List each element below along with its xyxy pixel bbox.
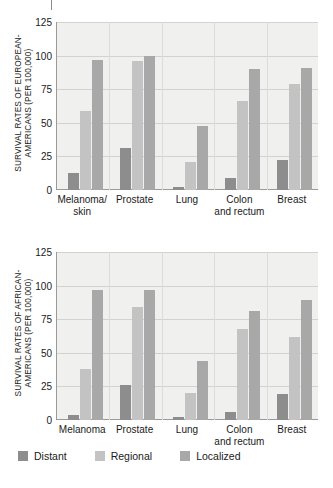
bar [249, 69, 260, 190]
bar [80, 369, 91, 420]
bar [185, 162, 196, 190]
figure-container: SURVIVAL RATES OF EUROPEAN- AMERICANS (P… [0, 0, 333, 488]
category-separator-2 [162, 252, 163, 420]
bar [132, 61, 143, 190]
legend-item-localized[interactable]: Localized [180, 450, 240, 462]
y-axis-title-line2: AMERICANS (PER 100,000) [23, 246, 34, 420]
category-label: Breast [252, 194, 332, 206]
legend-item-regional[interactable]: Regional [95, 450, 152, 462]
legend-swatch-icon-distant [18, 451, 28, 461]
bar [197, 126, 208, 191]
chart-african-americans: SURVIVAL RATES OF AFRICAN- AMERICANS (PE… [0, 246, 333, 458]
bar [277, 394, 288, 420]
y-axis-title-line1: SURVIVAL RATES OF AFRICAN- [13, 270, 23, 397]
bar [301, 300, 312, 420]
bar [289, 84, 300, 190]
legend: DistantRegionalLocalized [18, 450, 269, 462]
category-separator-1 [109, 22, 110, 190]
bar [132, 307, 143, 420]
bar-group [173, 252, 208, 420]
category-separator-3 [214, 252, 215, 420]
legend-item-distant[interactable]: Distant [18, 450, 67, 462]
y-tick-label-25: 25 [22, 381, 52, 392]
legend-label-regional: Regional [111, 450, 152, 462]
bar [237, 101, 248, 190]
y-tick-label-50: 50 [22, 347, 52, 358]
y-tick-label-100: 100 [22, 280, 52, 291]
chart-european-americans: SURVIVAL RATES OF EUROPEAN- AMERICANS (P… [0, 16, 333, 228]
bar-group [277, 252, 312, 420]
y-axis-title-european: SURVIVAL RATES OF EUROPEAN- AMERICANS (P… [2, 16, 44, 190]
y-tick-label-100: 100 [22, 50, 52, 61]
category-separator-2 [162, 22, 163, 190]
bar [92, 60, 103, 190]
y-tick-label-75: 75 [22, 84, 52, 95]
bar [144, 56, 155, 190]
bar-group [277, 22, 312, 190]
y-axis-title-line2: AMERICANS (PER 100,000) [23, 16, 34, 190]
bar [92, 290, 103, 420]
bar [197, 361, 208, 420]
bar [237, 329, 248, 420]
bar [144, 290, 155, 420]
bar [249, 311, 260, 420]
legend-label-localized: Localized [196, 450, 240, 462]
legend-swatch-icon-localized [180, 451, 190, 461]
y-axis-title-line1: SURVIVAL RATES OF EUROPEAN- [13, 34, 23, 171]
category-separator-4 [267, 22, 268, 190]
bar [225, 412, 236, 420]
y-tick-label-125: 125 [22, 247, 52, 258]
category-separator-4 [267, 252, 268, 420]
bar [301, 68, 312, 190]
category-separator-1 [109, 252, 110, 420]
bar [277, 160, 288, 190]
bar [68, 173, 79, 190]
bar [225, 178, 236, 190]
bar-group [225, 252, 260, 420]
y-axis-title-african: SURVIVAL RATES OF AFRICAN- AMERICANS (PE… [2, 246, 44, 420]
y-tick-label-25: 25 [22, 151, 52, 162]
y-tick-label-50: 50 [22, 117, 52, 128]
y-tick-label-75: 75 [22, 314, 52, 325]
bar [120, 148, 131, 190]
plot-area-african: 0255075100125 [56, 252, 318, 420]
legend-label-distant: Distant [34, 450, 67, 462]
bar-group [120, 252, 155, 420]
plot-area-european: 0255075100125 [56, 22, 318, 190]
category-separator-3 [214, 22, 215, 190]
bar [173, 417, 184, 420]
bar-group [68, 252, 103, 420]
legend-swatch-icon-regional [95, 451, 105, 461]
bar-group [173, 22, 208, 190]
bar [120, 385, 131, 420]
bar [80, 111, 91, 190]
bar [289, 337, 300, 420]
y-tick-label-125: 125 [22, 17, 52, 28]
bar-group [120, 22, 155, 190]
bar [173, 187, 184, 190]
bar-group [225, 22, 260, 190]
category-label: Breast [252, 424, 332, 436]
bar [68, 415, 79, 420]
bar [185, 393, 196, 420]
crop-tick-mark [51, 0, 52, 10]
bar-group [68, 22, 103, 190]
